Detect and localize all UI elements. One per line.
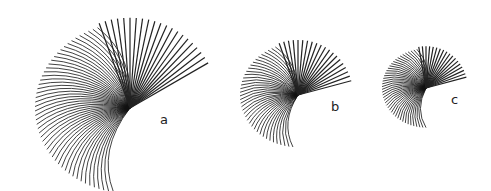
fan-c: [382, 46, 466, 127]
illustration: [0, 0, 491, 191]
panel-label-a: a: [160, 112, 168, 127]
fan-a: [35, 18, 208, 191]
fan-b: [240, 40, 351, 147]
panel-label-c: c: [451, 92, 458, 107]
panel-label-b: b: [331, 99, 339, 114]
